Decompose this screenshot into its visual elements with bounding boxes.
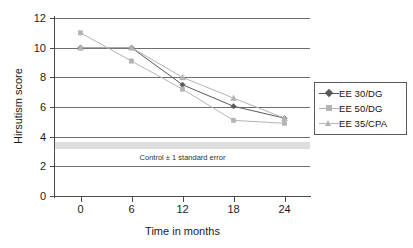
x-tick-mark: [285, 197, 286, 202]
data-point-marker: [78, 31, 82, 35]
chart-figure: 024681012 06121824 Control ± 1 standard …: [0, 0, 413, 248]
data-point-marker: [231, 104, 236, 109]
x-tick-label: 0: [61, 203, 101, 215]
y-tick-label: 8: [22, 71, 46, 83]
series-layer: [55, 18, 310, 196]
data-point-marker: [129, 59, 133, 63]
legend-label: EE 50/DG: [339, 103, 383, 114]
data-point-marker: [180, 87, 184, 91]
data-point-marker: [231, 118, 235, 122]
data-point-marker: [231, 95, 237, 101]
x-axis-title: Time in months: [55, 225, 310, 237]
chart-legend: EE 30/DGEE 50/DGEE 35/CPA: [314, 82, 407, 135]
y-tick-label: 0: [22, 190, 46, 202]
legend-item-3[interactable]: EE 35/CPA: [317, 116, 404, 131]
x-tick-mark: [234, 197, 235, 202]
data-point-marker: [180, 74, 186, 80]
x-tick-label: 24: [265, 203, 305, 215]
plot-area: Control ± 1 standard error: [55, 18, 310, 196]
y-tick-label: 2: [22, 160, 46, 172]
y-tick-mark: [50, 196, 55, 197]
x-tick-mark: [81, 197, 82, 202]
data-point-marker: [282, 121, 286, 125]
series-1: [78, 45, 287, 121]
legend-marker-square-icon: [319, 103, 339, 114]
y-tick-label: 10: [22, 42, 46, 54]
legend-item-1[interactable]: EE 30/DG: [317, 86, 404, 101]
legend-label: EE 35/CPA: [339, 118, 387, 129]
y-tick-label: 4: [22, 131, 46, 143]
y-tick-label: 12: [22, 12, 46, 24]
y-axis-title: Hirsutism score: [12, 41, 24, 171]
legend-label: EE 30/DG: [339, 88, 383, 99]
x-tick-label: 6: [112, 203, 152, 215]
y-tick-label: 6: [22, 101, 46, 113]
legend-marker-diamond-icon: [319, 88, 339, 99]
legend-marker-triangle-icon: [319, 118, 339, 129]
x-tick-mark: [132, 197, 133, 202]
x-tick-label: 12: [163, 203, 203, 215]
x-tick-label: 18: [214, 203, 254, 215]
legend-item-2[interactable]: EE 50/DG: [317, 101, 404, 116]
x-tick-mark: [183, 197, 184, 202]
